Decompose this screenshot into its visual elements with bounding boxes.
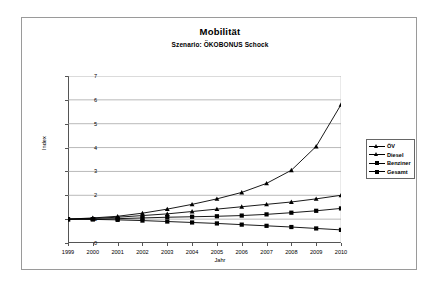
x-tick-mark xyxy=(118,243,119,246)
x-tick-mark xyxy=(267,243,268,246)
y-tick-label: 1 xyxy=(67,216,97,222)
y-tick-mark xyxy=(65,171,68,172)
legend-label: Gesamt xyxy=(385,169,408,175)
y-tick-mark xyxy=(65,76,68,77)
legend-marker-icon xyxy=(369,160,385,167)
legend-label: ÖV xyxy=(385,143,395,149)
legend-item: Gesamt xyxy=(369,168,411,177)
legend-label: Diesel xyxy=(385,152,403,158)
y-tick-mark xyxy=(65,195,68,196)
x-tick-mark xyxy=(341,243,342,246)
y-tick-label: 4 xyxy=(67,145,97,151)
y-tick-mark xyxy=(65,124,68,125)
legend-label: Benziner xyxy=(385,160,411,166)
y-tick-label: 5 xyxy=(67,121,97,127)
legend-item: Benziner xyxy=(369,159,411,168)
x-tick-mark xyxy=(316,243,317,246)
y-tick-mark xyxy=(65,148,68,149)
x-tick-label: 2010 xyxy=(324,249,358,255)
x-tick-mark xyxy=(142,243,143,246)
y-axis-label: Index xyxy=(41,136,47,150)
x-tick-mark xyxy=(291,243,292,246)
y-tick-label: 3 xyxy=(67,168,97,174)
x-tick-mark xyxy=(242,243,243,246)
y-tick-label: 6 xyxy=(67,97,97,103)
chart-page: Mobilität Szenario: ÖKOBONUS Schock Inde… xyxy=(0,0,440,288)
y-tick-label: 2 xyxy=(67,192,97,198)
x-axis-label: Jahr xyxy=(0,257,440,263)
series-lines xyxy=(68,76,341,243)
legend-marker-icon xyxy=(369,143,385,150)
x-tick-mark xyxy=(93,243,94,246)
x-tick-mark xyxy=(167,243,168,246)
y-tick-mark xyxy=(65,100,68,101)
legend-item: Diesel xyxy=(369,151,411,160)
y-tick-mark xyxy=(65,219,68,220)
x-tick-mark xyxy=(192,243,193,246)
legend-marker-icon xyxy=(369,168,385,175)
legend-item: ÖV xyxy=(369,142,411,151)
x-tick-mark xyxy=(68,243,69,246)
chart-subtitle: Szenario: ÖKOBONUS Schock xyxy=(0,41,440,48)
x-tick-mark xyxy=(217,243,218,246)
chart-title: Mobilität xyxy=(0,26,440,37)
legend-marker-icon xyxy=(369,151,385,158)
plot-area-wrapper xyxy=(68,76,341,243)
chart-legend: ÖVDieselBenzinerGesamt xyxy=(366,139,415,179)
y-tick-label: 7 xyxy=(67,73,97,79)
